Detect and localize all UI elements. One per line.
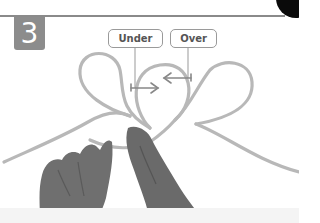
over-callout-label: Over: [170, 29, 217, 48]
under-callout-label: Under: [108, 29, 163, 48]
